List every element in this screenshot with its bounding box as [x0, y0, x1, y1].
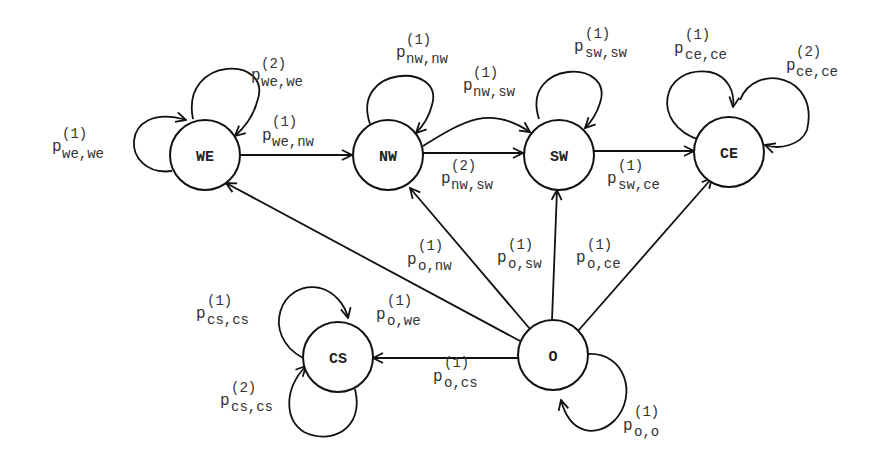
svg-text:(2): (2)	[796, 44, 821, 60]
svg-text:p: p	[376, 306, 386, 324]
label-o-we: p (1) o,we	[376, 293, 421, 329]
svg-text:(1): (1)	[406, 32, 431, 48]
node-nw: NW	[353, 120, 423, 190]
svg-text:p: p	[607, 170, 617, 188]
svg-text:p: p	[196, 305, 206, 323]
svg-text:(1): (1)	[272, 114, 297, 130]
node-we: WE	[170, 120, 240, 190]
svg-text:we,we: we,we	[62, 146, 104, 162]
label-nw-nw: p (1) nw,nw	[396, 32, 449, 67]
label-ce-ce-2: p (2) ce,ce	[786, 44, 838, 80]
svg-text:(1): (1)	[207, 293, 232, 309]
node-sw: SW	[524, 120, 594, 190]
svg-text:nw,nw: nw,nw	[406, 51, 449, 67]
svg-text:(1): (1)	[585, 26, 610, 42]
svg-text:p: p	[463, 77, 473, 95]
label-o-o: p (1) o,o	[623, 404, 659, 440]
svg-text:p: p	[574, 38, 584, 56]
svg-text:(1): (1)	[618, 158, 643, 174]
edge-sw-sw	[536, 72, 601, 128]
label-sw-ce: p (1) sw,ce	[607, 158, 660, 193]
svg-text:(1): (1)	[418, 238, 443, 254]
svg-text:ce,ce: ce,ce	[796, 64, 838, 80]
node-nw-label: NW	[379, 149, 397, 166]
svg-text:ce,ce: ce,ce	[685, 47, 727, 63]
svg-text:p: p	[52, 138, 62, 156]
node-ce: CE	[694, 117, 764, 187]
svg-text:cs,cs: cs,cs	[231, 399, 273, 415]
svg-text:(2): (2)	[261, 56, 286, 72]
node-sw-label: SW	[550, 149, 568, 166]
svg-text:p: p	[786, 57, 796, 75]
svg-text:sw,ce: sw,ce	[618, 177, 660, 193]
svg-text:(1): (1)	[387, 293, 412, 309]
label-sw-sw: p (1) sw,sw	[574, 26, 628, 61]
svg-text:(1): (1)	[587, 237, 612, 253]
label-o-cs: p (1) o,cs	[433, 355, 478, 391]
label-ce-ce-1: p (1) ce,ce	[674, 27, 727, 63]
node-we-label: WE	[196, 149, 214, 166]
edge-nw-sw-1	[423, 118, 530, 146]
edge-o-sw	[552, 190, 557, 320]
svg-text:p: p	[623, 417, 633, 435]
svg-text:nw,sw: nw,sw	[451, 177, 494, 193]
label-nw-sw-2: p (2) nw,sw	[441, 158, 494, 193]
node-cs: CS	[303, 322, 373, 392]
svg-text:p: p	[674, 40, 684, 58]
node-ce-label: CE	[720, 146, 738, 163]
node-cs-label: CS	[329, 351, 347, 368]
node-o: O	[518, 320, 588, 390]
svg-text:o,sw: o,sw	[508, 256, 542, 272]
edge-o-we	[226, 183, 520, 341]
svg-text:nw,sw: nw,sw	[473, 84, 516, 100]
svg-text:p: p	[433, 368, 443, 386]
label-we-we-2: p (2) we,we	[251, 56, 303, 90]
svg-text:cs,cs: cs,cs	[207, 312, 249, 328]
svg-text:p: p	[396, 44, 406, 62]
svg-text:sw,sw: sw,sw	[585, 45, 628, 61]
svg-text:o,ce: o,ce	[587, 256, 621, 272]
svg-text:(1): (1)	[634, 404, 659, 420]
label-o-ce: p (1) o,ce	[576, 237, 621, 272]
svg-text:(1): (1)	[62, 126, 87, 142]
svg-text:o,nw: o,nw	[418, 258, 452, 274]
svg-text:(2): (2)	[451, 158, 476, 174]
svg-text:(1): (1)	[473, 65, 498, 81]
edge-o-ce	[578, 178, 712, 331]
label-we-we-1: p (1) we,we	[52, 126, 104, 162]
svg-text:p: p	[576, 249, 586, 267]
svg-text:p: p	[220, 392, 230, 410]
label-we-nw: p (1) we,nw	[262, 114, 315, 150]
svg-text:(1): (1)	[685, 27, 710, 43]
svg-text:o,we: o,we	[387, 313, 421, 329]
label-o-sw: p (1) o,sw	[497, 237, 542, 272]
state-diagram: WE NW SW CE CS O p (1) we,we p (2) we,we…	[0, 0, 894, 475]
svg-text:p: p	[441, 170, 451, 188]
svg-text:p: p	[262, 127, 272, 145]
svg-text:p: p	[407, 251, 417, 269]
label-cs-cs-2: p (2) cs,cs	[220, 380, 273, 415]
svg-text:(1): (1)	[444, 355, 469, 371]
label-o-nw: p (1) o,nw	[407, 238, 452, 274]
svg-text:o,o: o,o	[634, 424, 659, 440]
node-o-label: O	[548, 349, 557, 366]
svg-text:(1): (1)	[508, 237, 533, 253]
svg-text:we,we: we,we	[261, 74, 303, 90]
svg-text:we,nw: we,nw	[272, 134, 315, 150]
label-cs-cs-1: p (1) cs,cs	[196, 293, 249, 328]
svg-text:p: p	[497, 249, 507, 267]
svg-text:(2): (2)	[231, 380, 256, 396]
svg-text:o,cs: o,cs	[444, 375, 478, 391]
label-nw-sw-1: p (1) nw,sw	[463, 65, 516, 100]
svg-text:p: p	[251, 67, 261, 85]
